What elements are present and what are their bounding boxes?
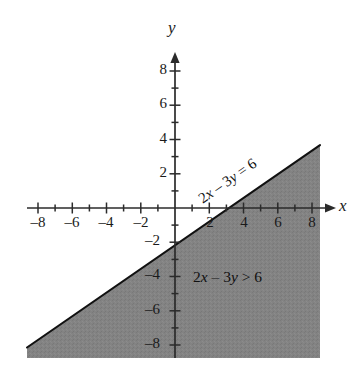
x-tick-label: 6 [264, 214, 292, 231]
x-tick-label: 4 [230, 214, 258, 231]
x-tick-label: –6 [58, 214, 86, 231]
plot-canvas [0, 0, 363, 385]
y-tick-label: –6 [134, 301, 160, 318]
x-tick-label: 8 [298, 214, 326, 231]
y-tick-label: 4 [141, 130, 167, 147]
inequality-region-label: 2x – 3y > 6 [193, 268, 262, 286]
y-tick-label: –8 [134, 335, 160, 352]
y-tick-label: 2 [141, 164, 167, 181]
x-tick-label: –8 [24, 214, 52, 231]
y-axis-label: y [168, 18, 176, 38]
x-axis-label: x [339, 196, 347, 216]
y-tick-label: 8 [141, 61, 167, 78]
x-tick-label: –4 [92, 214, 120, 231]
x-tick-label: –2 [127, 214, 155, 231]
y-tick-label: –4 [134, 266, 160, 283]
y-tick-label: 6 [141, 95, 167, 112]
x-tick-label: 2 [196, 214, 224, 231]
y-tick-label: –2 [134, 232, 160, 249]
inequality-graph-figure: y x –8 –6 –4 –2 2 4 6 8 8 6 4 2 –2 –4 –6… [0, 0, 363, 385]
shaded-solution-region [27, 145, 320, 358]
